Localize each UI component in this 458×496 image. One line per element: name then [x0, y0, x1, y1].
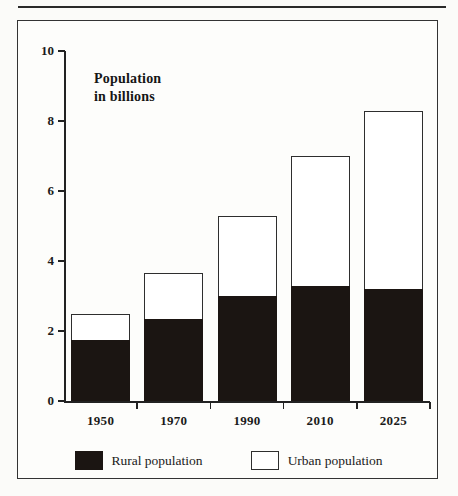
bar-urban-1970 [144, 273, 203, 320]
figure-frame: 0246810 19501970199020102025 Population … [17, 20, 438, 479]
legend-label-rural: Rural population [112, 453, 203, 469]
legend-swatch-urban-icon [251, 451, 279, 470]
y-tick-label-10: 10 [24, 44, 54, 57]
bar-urban-2010 [291, 156, 350, 287]
x-tick-label-2010: 2010 [284, 413, 357, 429]
y-axis-line [64, 51, 66, 402]
y-tick-2 [58, 330, 65, 332]
bar-rural-1990 [218, 296, 277, 401]
plot-area: 0246810 19501970199020102025 Population … [18, 21, 439, 480]
x-tick-label-2025: 2025 [357, 413, 430, 429]
x-tick-2025 [429, 402, 431, 409]
legend-label-urban: Urban population [288, 453, 383, 469]
legend-item-urban: Urban population [251, 451, 383, 470]
chart-title-line-2: in billions [94, 88, 161, 106]
y-tick-label-4: 4 [24, 254, 54, 267]
x-tick-1990 [283, 402, 285, 409]
y-tick-10 [58, 50, 65, 52]
bar-urban-1950 [71, 314, 130, 342]
y-tick-label-6: 6 [24, 184, 54, 197]
x-tick-2010 [356, 402, 358, 409]
chart-title-line-1: Population [94, 70, 161, 88]
page-top-rule [18, 6, 446, 8]
legend-item-rural: Rural population [75, 451, 203, 470]
y-tick-label-2: 2 [24, 324, 54, 337]
bar-urban-2025 [364, 111, 423, 291]
bar-rural-2010 [291, 286, 350, 402]
legend-swatch-rural-icon [75, 451, 103, 470]
chart-title: Population in billions [94, 70, 161, 106]
bar-rural-1950 [71, 340, 130, 401]
y-tick-6 [58, 190, 65, 192]
x-axis-line [64, 401, 430, 403]
y-tick-label-0: 0 [24, 394, 54, 407]
figure-page: 0246810 19501970199020102025 Population … [0, 0, 458, 496]
chart-legend: Rural populationUrban population [18, 451, 439, 470]
x-tick-1950 [136, 402, 138, 409]
bar-rural-1970 [144, 319, 203, 401]
x-tick-1970 [210, 402, 212, 409]
y-tick-label-8: 8 [24, 114, 54, 127]
x-tick-label-1970: 1970 [137, 413, 210, 429]
x-tick-label-1990: 1990 [210, 413, 283, 429]
y-tick-8 [58, 120, 65, 122]
y-tick-0 [58, 400, 65, 402]
bar-urban-1990 [218, 216, 277, 298]
x-tick-label-1950: 1950 [64, 413, 137, 429]
bar-rural-2025 [364, 289, 423, 401]
y-tick-4 [58, 260, 65, 262]
